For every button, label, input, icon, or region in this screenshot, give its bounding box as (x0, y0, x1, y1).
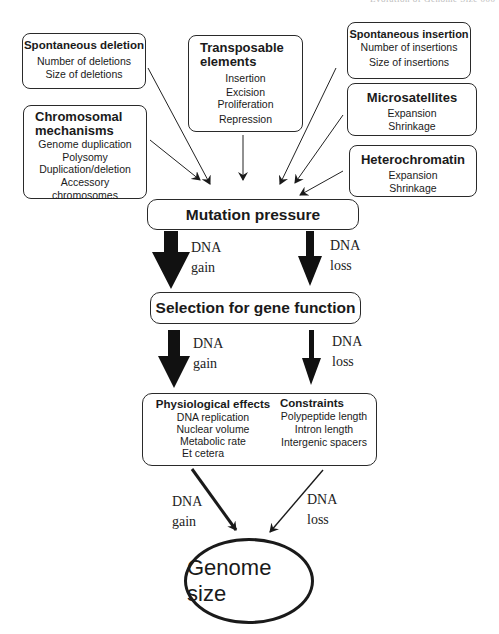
microsatellites-box: Microsatellites Expansion Shrinkage (347, 83, 477, 136)
label-sel-loss: DNA loss (332, 332, 362, 372)
spontaneous-insertion-item: Number of insertions (348, 41, 470, 54)
spontaneous-deletion-item: Number of deletions (23, 55, 145, 68)
transposable-item: Proliferation (189, 98, 302, 111)
spontaneous-insertion-box: Spontaneous insertion Number of insertio… (347, 22, 471, 79)
heterochromatin-box: Heterochromatin Expansion Shrinkage (349, 145, 477, 197)
spontaneous-deletion-item: Size of deletions (23, 68, 145, 81)
label-eff-loss: DNA loss (307, 490, 337, 530)
mutation-pressure-label: Mutation pressure (186, 206, 320, 224)
transposable-item: Insertion (189, 72, 302, 85)
spontaneous-deletion-title: Spontaneous deletion (23, 39, 145, 52)
microsatellites-item: Shrinkage (348, 120, 476, 133)
chromosomal-item: Polysomy (24, 151, 146, 164)
chromosomal-item: Genome duplication (24, 138, 146, 151)
physiological-effects-column: Physiological effects DNA replication Nu… (151, 398, 275, 459)
heterochromatin-item: Expansion (350, 169, 476, 182)
transposable-title-line1: Transposable (189, 41, 302, 55)
chromosomal-title-line1: Chromosomal (24, 110, 146, 124)
arrow-heterochromatin-to-mutation (300, 171, 343, 195)
arrow-sel-gain (158, 330, 190, 388)
transposable-item: Repression (189, 113, 302, 126)
label-mp-gain: DNA gain (191, 238, 221, 278)
physiological-item: DNA replication (151, 411, 275, 423)
microsatellites-item: Expansion (348, 107, 476, 120)
transposable-title-line2: elements (189, 55, 302, 69)
microsatellites-title: Microsatellites (348, 91, 476, 105)
chromosomal-item: chromosomes (24, 189, 146, 202)
transposable-elements-box: Transposable elements Insertion Excision… (188, 35, 303, 132)
heterochromatin-title: Heterochromatin (350, 153, 476, 167)
label-sel-gain: DNA gain (193, 334, 223, 374)
transposable-item: Excision (189, 86, 302, 99)
chromosomal-title-line2: mechanisms (24, 124, 146, 138)
selection-label: Selection for gene function (156, 299, 356, 317)
physiological-item: Nuclear volume (151, 423, 275, 435)
label-eff-gain: DNA gain (172, 492, 202, 532)
physiological-item: Metabolic rate (151, 435, 275, 447)
chromosomal-mechanisms-box: Chromosomal mechanisms Genome duplicatio… (23, 105, 147, 199)
arrow-mp-gain (152, 231, 190, 289)
constraints-item: Polypeptide length (274, 410, 374, 423)
physiological-effects-title: Physiological effects (151, 398, 275, 411)
chromosomal-item: Duplication/deletion (24, 163, 146, 176)
spontaneous-deletion-box: Spontaneous deletion Number of deletions… (22, 33, 146, 89)
chromosomal-item: Accessory (24, 176, 146, 189)
genome-size-ellipse: Genome size (184, 538, 314, 624)
heterochromatin-item: Shrinkage (350, 182, 476, 195)
selection-box: Selection for gene function (150, 292, 361, 324)
spontaneous-insertion-item: Size of insertions (348, 56, 470, 69)
genome-size-label: Genome size (187, 555, 311, 607)
constraints-column: Constraints Polypeptide length Intron le… (274, 397, 374, 449)
label-mp-loss: DNA loss (330, 236, 360, 276)
arrow-sel-loss (302, 330, 321, 385)
spontaneous-insertion-title: Spontaneous insertion (348, 28, 470, 41)
physiological-item: Et cetera (131, 447, 275, 459)
constraints-item: Intron length (274, 423, 374, 436)
constraints-title: Constraints (274, 397, 374, 410)
effects-constraints-box: Physiological effects DNA replication Nu… (142, 393, 377, 466)
arrow-chromosomal-to-mutation (150, 140, 200, 180)
arrow-mp-loss (298, 231, 322, 286)
constraints-item: Intergenic spacers (274, 436, 374, 449)
mutation-pressure-box: Mutation pressure (147, 199, 359, 230)
